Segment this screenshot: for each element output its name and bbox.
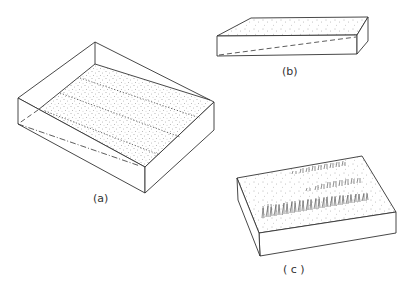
panel-a-label: (a)	[93, 192, 108, 205]
panel-c-label: ( c )	[283, 263, 305, 276]
panel-c-block: ( c )	[237, 156, 396, 276]
panel-a-block: (a)	[18, 42, 214, 205]
panel-b-label: (b)	[282, 65, 298, 78]
diagram-canvas: (a) (b) ( c )	[0, 0, 415, 288]
panel-b-block: (b)	[217, 17, 368, 78]
block-b-top-face	[217, 17, 368, 36]
